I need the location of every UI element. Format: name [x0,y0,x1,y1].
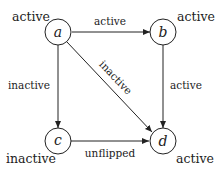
node-d: d [150,128,176,154]
node-d-label: d [159,133,168,149]
edge-label-a-c: inactive [8,79,50,91]
edge-a-d [67,42,152,132]
node-c-state: inactive [6,151,56,166]
node-b-label: b [159,24,168,40]
node-a-label: a [54,24,62,40]
edge-label-c-d: unflipped [85,147,136,159]
state-diagram: active inactive inactive active unflippe… [0,0,220,169]
edge-label-a-b: active [94,15,126,27]
node-b-state: active [177,9,215,24]
edge-label-b-d: active [170,79,202,91]
node-d-state: active [176,151,214,166]
edge-label-a-d: inactive [97,58,135,97]
node-c-label: c [54,132,62,148]
node-b: b [150,19,176,45]
node-a-state: active [12,9,50,24]
